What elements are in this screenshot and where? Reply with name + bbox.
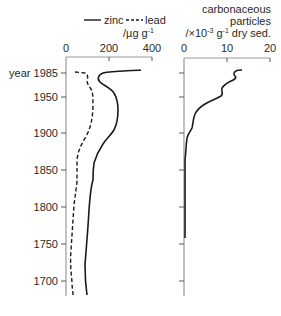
carbonaceous-label-line2: particles: [230, 15, 271, 27]
right-x-axis: 0 10 20: [181, 42, 276, 62]
right-y-axis: [179, 58, 184, 296]
y-tick-label: 1700: [34, 275, 58, 287]
left-y-axis: year 1985 1950 1900 1850 1800 1750 1700: [9, 57, 66, 296]
left-unit-label: /µg g-1: [123, 27, 154, 39]
right-panel-title: carbonaceous particles /×10-3 g-1 dry se…: [185, 3, 271, 39]
y-tick-label: 1800: [34, 201, 58, 213]
x-tick-label: 20: [264, 42, 276, 54]
y-tick-label: 1900: [34, 127, 58, 139]
carbonaceous-label-line1: carbonaceous: [202, 3, 272, 15]
legend: zinc lead: [84, 14, 166, 26]
zinc-series-line: [85, 70, 141, 295]
legend-lead-label: lead: [145, 14, 166, 26]
y-tick-label: 1850: [34, 164, 58, 176]
figure: zinc lead /µg g-1 0 200 400 year 1985 19…: [0, 0, 281, 316]
chart-svg: zinc lead /µg g-1 0 200 400 year 1985 19…: [0, 0, 281, 316]
legend-zinc-label: zinc: [104, 14, 124, 26]
left-x-axis: 0 200 400: [63, 42, 161, 61]
x-tick-label: 0: [63, 42, 69, 54]
x-tick-label: 10: [221, 42, 233, 54]
x-tick-label: 400: [143, 42, 161, 54]
carbonaceous-unit-label: /×10-3 g-1 dry sed.: [185, 27, 271, 39]
carbonaceous-series-line: [185, 70, 242, 238]
y-tick-label: 1750: [34, 238, 58, 250]
x-tick-label: 0: [181, 42, 187, 54]
y-tick-label: 1950: [34, 91, 58, 103]
lead-series-line: [71, 72, 93, 295]
y-tick-label: year 1985: [9, 67, 58, 79]
x-tick-label: 200: [100, 42, 118, 54]
